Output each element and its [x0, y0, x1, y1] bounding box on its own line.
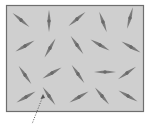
- pivot-dot-icon: [47, 19, 51, 23]
- pivot-dot-icon: [103, 70, 107, 74]
- dipole-diagram: [0, 0, 147, 127]
